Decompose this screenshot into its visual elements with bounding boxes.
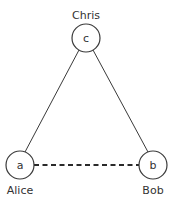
node-letter-b: b xyxy=(150,159,157,172)
node-name-chris: Chris xyxy=(72,9,100,22)
edge-chris-bob xyxy=(93,50,148,152)
node-letter-a: a xyxy=(17,159,24,172)
node-alice: a Alice xyxy=(6,151,34,197)
graph-diagram: Chris c a Alice b Bob xyxy=(0,0,176,203)
node-name-alice: Alice xyxy=(7,184,34,197)
node-letter-c: c xyxy=(83,32,89,45)
edge-chris-alice xyxy=(25,50,79,152)
node-bob: b Bob xyxy=(139,151,167,197)
node-chris: Chris c xyxy=(72,9,100,53)
node-name-bob: Bob xyxy=(142,184,163,197)
